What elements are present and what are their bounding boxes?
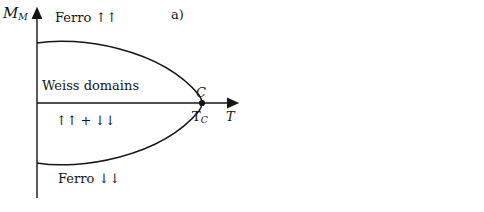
panel-a-region-up-down: ↑↑ + ↓↓ bbox=[56, 114, 115, 127]
panel-a-region-weiss-domains: Weiss domains bbox=[42, 79, 139, 92]
panel-a-region-ferro-up: Ferro ↑↑ bbox=[55, 11, 117, 24]
panel-a-tc-subscript: C bbox=[201, 114, 208, 125]
panel-a-x-axis-label: T bbox=[226, 110, 235, 123]
panel-a-plot bbox=[0, 0, 242, 212]
panel-a-tag: a) bbox=[171, 8, 184, 21]
panel-a: MM Ferro ↑↑ Weiss domains ↑↑ + ↓↓ Ferro … bbox=[0, 0, 242, 212]
panel-a-coexistence-curve-upper bbox=[37, 41, 202, 103]
panel-a-y-axis-label: MM bbox=[3, 6, 28, 22]
panel-a-critical-temperature-label: TC bbox=[192, 110, 208, 125]
panel-a-y-axis-subscript: M bbox=[18, 11, 28, 22]
panel-a-critical-point-label: C bbox=[196, 86, 206, 99]
panel-a-region-ferro-down: Ferro ↓↓ bbox=[58, 172, 120, 185]
figure-canvas: MM Ferro ↑↑ Weiss domains ↑↑ + ↓↓ Ferro … bbox=[0, 0, 484, 212]
panel-b: ρ liquid region of coexistence ρC l + g … bbox=[242, 0, 484, 212]
panel-a-y-axis-symbol: M bbox=[3, 4, 18, 22]
panel-a-critical-point bbox=[199, 100, 205, 106]
panel-a-tc-symbol: T bbox=[192, 109, 201, 124]
